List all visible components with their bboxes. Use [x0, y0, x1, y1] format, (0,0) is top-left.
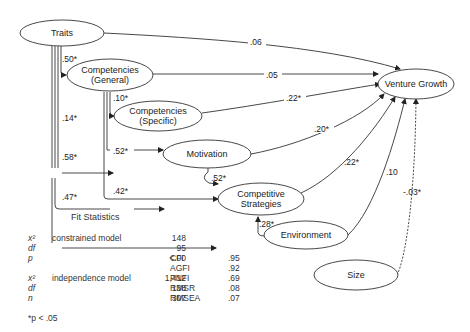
fit-statistics-title: Fit Statistics: [71, 212, 120, 222]
label-cs-2: (Specific): [139, 116, 177, 126]
coef-cs-vg: .22*: [286, 93, 302, 103]
coef-strat-vg: .22*: [344, 157, 360, 167]
coef-mot-strat: .52*: [211, 173, 227, 183]
fit-row: x² constrained model 148: [28, 233, 268, 243]
label-traits: Traits: [51, 28, 74, 38]
coef-traits-cg: .50*: [62, 54, 78, 64]
significance-note: *p < .05: [28, 313, 58, 323]
coef-cg-strat: .42*: [113, 186, 129, 196]
coef-mot-vg: .20*: [314, 124, 330, 134]
label-cg-2: (General): [91, 75, 129, 85]
coef-traits-strat: .47*: [62, 192, 78, 202]
coef-env-strat: .28*: [259, 219, 275, 229]
fit-row: df 138 RMSR .08: [28, 283, 268, 293]
label-cs-1: Competencies: [129, 106, 187, 116]
fit-row: df 95: [28, 243, 268, 253]
fit-row: AGFI .92: [28, 263, 268, 273]
fit-row: p <.00 CFI .95: [28, 253, 268, 263]
coef-size-vg: -.03*: [403, 187, 422, 197]
coef-cg-mot: .52*: [113, 146, 129, 156]
label-venture-growth: Venture Growth: [385, 79, 448, 89]
coef-traits-vg: .06: [250, 37, 262, 47]
label-motivation: Motivation: [186, 149, 227, 159]
label-cg-1: Competencies: [81, 65, 139, 75]
coef-cg-vg: .05: [266, 70, 278, 80]
label-strat-1: Competitive: [237, 189, 285, 199]
coef-cg-cs: .10*: [113, 93, 129, 103]
label-environment: Environment: [281, 230, 332, 240]
coef-traits-mot: .58*: [62, 152, 78, 162]
coef-env-vg: .10: [386, 167, 398, 177]
coef-traits-cs: .14*: [62, 113, 78, 123]
fit-row: x² independence model 1,412 PNFI .69: [28, 273, 268, 283]
fit-row: n 307 RMSEA .07: [28, 293, 268, 303]
label-strat-2: Strategies: [241, 199, 282, 209]
label-size: Size: [347, 270, 365, 280]
